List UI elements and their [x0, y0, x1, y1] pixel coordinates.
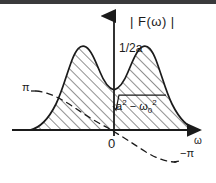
bandwidth-annotation: a2 − ω02 — [116, 99, 157, 115]
figure-container: | F(ω) | 1/2a 0 ω π −π a2 − ω02 — [0, 0, 216, 183]
radicand-minus-operator: − — [130, 100, 136, 112]
radicand-exponent-a: 2 — [122, 98, 126, 107]
x-axis-label: ω — [194, 136, 202, 146]
radicand-subscript-zero: 0 — [148, 106, 152, 115]
phase-lower-leader — [174, 161, 180, 162]
origin-label: 0 — [108, 137, 115, 150]
radicand-base-omega: ω — [139, 100, 148, 112]
phase-upper-asymptote-label: π — [22, 82, 30, 93]
peak-value-label: 1/2a — [119, 42, 142, 54]
radicand-exponent-omega: 2 — [152, 98, 156, 107]
magnitude-axis-label: | F(ω) | — [130, 15, 175, 28]
phase-lower-asymptote-label: −π — [180, 148, 194, 159]
